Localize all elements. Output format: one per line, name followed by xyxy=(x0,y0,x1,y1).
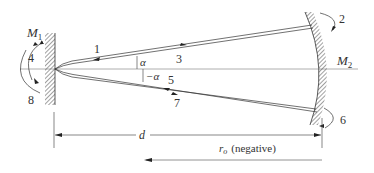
circulation-arrow-6-head xyxy=(319,124,324,128)
ray-arrow-5 xyxy=(163,88,170,91)
dimension-ro-label: ro(negative) xyxy=(219,142,276,156)
circulation-arrow-8-head xyxy=(34,78,39,84)
ray-arrow-7 xyxy=(171,92,178,95)
dimension-d xyxy=(54,112,322,148)
ray-label-2: 2 xyxy=(339,12,345,26)
ray-arrow-3 xyxy=(180,43,187,46)
angle-alpha-label: α xyxy=(140,56,146,68)
angle-neg-alpha-label: −α xyxy=(146,70,159,82)
ray-label-8: 8 xyxy=(28,93,34,107)
mirror-m1 xyxy=(45,33,55,105)
dimension-d-label: d xyxy=(139,128,146,142)
ray-label-7: 7 xyxy=(174,96,180,110)
circulation-arrow-6 xyxy=(324,108,333,128)
mirror-m1-label: M1 xyxy=(26,25,42,42)
ray-label-1: 1 xyxy=(94,42,100,56)
ray-label-4: 4 xyxy=(28,51,34,65)
ray-label-6: 6 xyxy=(340,113,346,127)
circulation-arrow-4-head xyxy=(33,42,38,46)
resonator-diagram: M1 M2 1 2 3 4 5 6 7 8 α −α d ro(negative… xyxy=(0,0,374,173)
ray-label-5: 5 xyxy=(168,73,174,87)
circulation-arrow-2-head xyxy=(331,26,336,32)
ray-label-3: 3 xyxy=(176,52,182,66)
lower-ray xyxy=(55,69,317,112)
mirror-m2-label: M2 xyxy=(336,53,352,70)
dimension-ro xyxy=(144,158,322,162)
